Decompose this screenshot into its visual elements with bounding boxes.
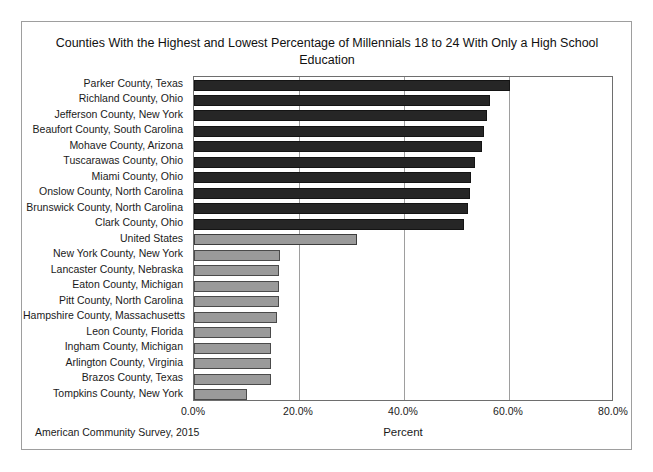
bar-brazos-county-texas (194, 374, 271, 385)
bar-row (194, 154, 612, 170)
chart-figure: Counties With the Highest and Lowest Per… (21, 21, 632, 450)
bar-united-states (194, 234, 357, 245)
bar-hampshire-county-massachusetts (194, 312, 277, 323)
bar-row (194, 325, 612, 341)
y-label-miami-county-ohio: Miami County, Ohio (23, 170, 183, 182)
bar-arlington-county-virginia (194, 358, 271, 369)
x-tick-label-80: 80.0% (583, 405, 643, 417)
x-tick-label-60: 60.0% (478, 405, 538, 417)
bar-parker-county-texas (194, 80, 510, 91)
y-label-arlington-county-virginia: Arlington County, Virginia (23, 356, 183, 368)
source-note: American Community Survey, 2015 (35, 426, 199, 438)
bar-miami-county-ohio (194, 172, 471, 183)
y-label-jefferson-county-new-york: Jefferson County, New York (23, 108, 183, 120)
y-axis-category-labels: Parker County, TexasRichland County, Ohi… (22, 76, 188, 401)
bar-jefferson-county-new-york (194, 110, 487, 121)
y-label-hampshire-county-massachusetts: Hampshire County, Massachusetts (23, 309, 183, 321)
bar-row (194, 123, 612, 139)
bar-tuscarawas-county-ohio (194, 157, 475, 168)
y-label-ingham-county-michigan: Ingham County, Michigan (23, 340, 183, 352)
y-label-mohave-county-arizona: Mohave County, Arizona (23, 139, 183, 151)
y-label-clark-county-ohio: Clark County, Ohio (23, 216, 183, 228)
y-label-brazos-county-texas: Brazos County, Texas (23, 371, 183, 383)
bar-row (194, 340, 612, 356)
x-axis-tick-labels: 0.0%20.0%40.0%60.0%80.0% (193, 405, 613, 421)
bar-row (194, 216, 612, 232)
y-label-beaufort-county-south-carolina: Beaufort County, South Carolina (23, 123, 183, 135)
bar-pitt-county-north-carolina (194, 296, 279, 307)
y-label-tompkins-county-new-york: Tompkins County, New York (23, 387, 183, 399)
y-label-eaton-county-michigan: Eaton County, Michigan (23, 278, 183, 290)
bar-new-york-county-new-york (194, 250, 280, 261)
bar-row (194, 247, 612, 263)
bar-row (194, 77, 612, 93)
bar-clark-county-ohio (194, 219, 464, 230)
bar-row (194, 139, 612, 155)
bar-row (194, 309, 612, 325)
x-tick-label-0: 0.0% (163, 405, 223, 417)
bar-series (194, 77, 612, 400)
y-label-tuscarawas-county-ohio: Tuscarawas County, Ohio (23, 154, 183, 166)
y-label-brunswick-county-north-carolina: Brunswick County, North Carolina (23, 201, 183, 213)
y-label-united-states: United States (23, 232, 183, 244)
bar-row (194, 294, 612, 310)
x-axis-title: Percent (193, 426, 613, 438)
x-tick-label-20: 20.0% (268, 405, 328, 417)
bar-row (194, 232, 612, 248)
bar-row (194, 263, 612, 279)
y-label-onslow-county-north-carolina: Onslow County, North Carolina (23, 185, 183, 197)
bar-row (194, 356, 612, 372)
bar-brunswick-county-north-carolina (194, 203, 468, 214)
bar-ingham-county-michigan (194, 343, 271, 354)
bar-richland-county-ohio (194, 95, 490, 106)
bar-row (194, 278, 612, 294)
bar-row (194, 185, 612, 201)
bar-row (194, 201, 612, 217)
bar-row (194, 387, 612, 403)
bar-tompkins-county-new-york (194, 389, 247, 400)
bar-beaufort-county-south-carolina (194, 126, 484, 137)
bar-leon-county-florida (194, 327, 271, 338)
x-tick-label-40: 40.0% (373, 405, 433, 417)
bar-row (194, 371, 612, 387)
y-label-leon-county-florida: Leon County, Florida (23, 325, 183, 337)
y-label-pitt-county-north-carolina: Pitt County, North Carolina (23, 294, 183, 306)
bar-row (194, 92, 612, 108)
bar-row (194, 170, 612, 186)
chart-title: Counties With the Highest and Lowest Per… (52, 35, 602, 69)
plot-area (193, 76, 613, 401)
bar-eaton-county-michigan (194, 281, 279, 292)
y-label-richland-county-ohio: Richland County, Ohio (23, 92, 183, 104)
bar-onslow-county-north-carolina (194, 188, 470, 199)
y-label-lancaster-county-nebraska: Lancaster County, Nebraska (23, 263, 183, 275)
bar-row (194, 108, 612, 124)
bar-lancaster-county-nebraska (194, 265, 279, 276)
y-label-new-york-county-new-york: New York County, New York (23, 247, 183, 259)
y-label-parker-county-texas: Parker County, Texas (23, 77, 183, 89)
bar-mohave-county-arizona (194, 141, 482, 152)
